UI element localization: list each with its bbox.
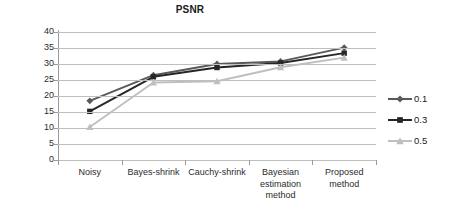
data-point-marker (151, 74, 156, 79)
x-axis-tick-mark (312, 160, 313, 165)
y-axis-tick-label: 30 (30, 59, 54, 68)
psnr-line-chart: PSNR 4035302520151050 NoisyBayes-shrinkC… (0, 0, 455, 215)
gridline (58, 144, 376, 145)
legend-label: 0.5 (414, 136, 427, 146)
y-axis-tick-label: 0 (30, 155, 54, 164)
y-axis-tick-mark (54, 112, 58, 113)
x-axis-tick-label: Bayes-shrink (122, 167, 186, 213)
y-axis-tick-label: 35 (30, 43, 54, 52)
legend-swatch (388, 93, 412, 105)
y-axis-tick-mark (54, 48, 58, 49)
x-axis-tick-label: Proposed method (312, 167, 376, 213)
legend-label: 0.3 (414, 115, 427, 125)
legend-swatch (388, 135, 412, 147)
legend-marker-diamond-icon (388, 93, 412, 105)
legend-marker-triangle-icon (388, 135, 412, 147)
x-axis-tick-mark (185, 160, 186, 165)
legend-label: 0.1 (414, 94, 427, 104)
gridline (58, 48, 376, 49)
gridline (58, 32, 376, 33)
x-axis-tick-labels: NoisyBayes-shrinkCauchy-shrinkBayesian e… (58, 167, 376, 213)
legend-marker-square-icon (388, 114, 412, 126)
y-axis-tick-label: 25 (30, 75, 54, 84)
chart-legend: 0.10.30.5 (388, 88, 452, 151)
y-axis-tick-label: 40 (30, 27, 54, 36)
gridline (58, 160, 376, 161)
y-axis-tick-mark (54, 96, 58, 97)
y-axis-tick-label: 10 (30, 123, 54, 132)
legend-item-0-3: 0.3 (388, 109, 452, 130)
y-axis-tick-label: 5 (30, 139, 54, 148)
y-axis-tick-mark (54, 32, 58, 33)
y-axis-tick-label: 15 (30, 107, 54, 116)
series-line (90, 48, 344, 101)
gridline (58, 112, 376, 113)
y-axis-tick-mark (54, 64, 58, 65)
y-axis-tick-mark (54, 80, 58, 81)
x-axis-tick-mark (122, 160, 123, 165)
y-axis-tick-mark (54, 128, 58, 129)
chart-title: PSNR (0, 4, 380, 15)
x-axis-tick-label: Noisy (58, 167, 122, 213)
x-axis-tick-mark (376, 160, 377, 165)
legend-swatch (388, 114, 412, 126)
y-axis-tick-label: 20 (30, 91, 54, 100)
plot-area (58, 32, 376, 160)
gridline (58, 96, 376, 97)
x-axis-tick-mark (249, 160, 250, 165)
y-axis-tick-mark (54, 144, 58, 145)
gridline (58, 128, 376, 129)
y-axis-tick-labels: 4035302520151050 (26, 32, 54, 160)
legend-item-0-5: 0.5 (388, 130, 452, 151)
x-axis-tick-mark (58, 160, 59, 165)
x-axis-tick-label: Cauchy-shrink (185, 167, 249, 213)
x-axis-tick-label: Bayesian estimation method (249, 167, 313, 213)
gridline (58, 64, 376, 65)
gridline (58, 80, 376, 81)
legend-item-0-1: 0.1 (388, 88, 452, 109)
data-point-marker (86, 97, 93, 104)
data-point-marker (214, 65, 219, 70)
